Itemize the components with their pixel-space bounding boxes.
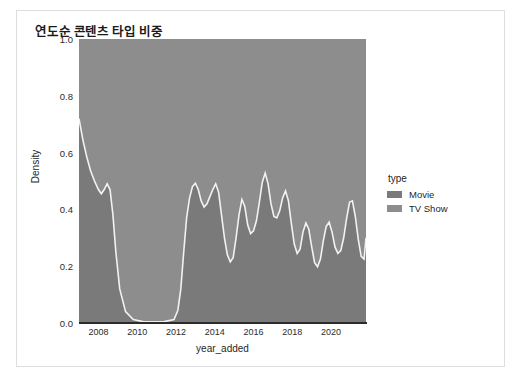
y-tick-label: 0.0: [43, 318, 73, 329]
legend-entries: MovieTV Show: [387, 188, 487, 215]
x-tick-label: 2010: [127, 327, 147, 337]
y-tick-label: 1.0: [43, 34, 73, 45]
legend-title: type: [387, 173, 487, 184]
legend-item-label: Movie: [409, 189, 434, 200]
x-axis-label: year_added: [79, 343, 366, 354]
x-tick-label: 2008: [88, 327, 108, 337]
legend-swatch-icon: [387, 205, 402, 212]
x-tick-label: 2018: [282, 327, 302, 337]
legend-item-label: TV Show: [409, 203, 448, 214]
x-axis-ticks: 2008201020122014201620182020: [79, 327, 366, 343]
x-tick-label: 2016: [243, 327, 263, 337]
y-tick-label: 0.2: [43, 261, 73, 272]
x-tick-label: 2012: [166, 327, 186, 337]
y-tick-label: 0.6: [43, 147, 73, 158]
y-tick-label: 0.8: [43, 90, 73, 101]
legend-swatch-icon: [387, 191, 402, 198]
x-tick-label: 2020: [321, 327, 341, 337]
y-axis-ticks: 0.00.20.40.60.81.0: [43, 39, 73, 323]
density-plot-svg: [79, 39, 366, 323]
legend-item-tv-show[interactable]: TV Show: [387, 202, 487, 215]
plot-area: [79, 39, 366, 323]
x-tick-label: 2014: [205, 327, 225, 337]
figure-card: 연도순 콘텐츠 타입 비중 0.00.20.40.60.81.0 2008201…: [16, 10, 505, 367]
y-tick-label: 0.4: [43, 204, 73, 215]
y-axis-label: Density: [30, 127, 41, 207]
legend: type MovieTV Show: [387, 173, 487, 216]
legend-item-movie[interactable]: Movie: [387, 188, 487, 201]
x-axis-line: [79, 322, 367, 324]
